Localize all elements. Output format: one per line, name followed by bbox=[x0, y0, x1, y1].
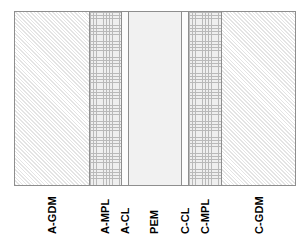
caption-pem-label: PEM bbox=[149, 210, 160, 234]
layer-c-mpl bbox=[188, 12, 221, 185]
layer-c-cl bbox=[181, 12, 188, 185]
figure-canvas: A-GDM A-MPL A-CL PEM C-CL C-MPL C-GDM bbox=[0, 0, 308, 236]
layer-a-gdm bbox=[15, 12, 89, 185]
caption-c-cl-label: C-CL bbox=[180, 207, 191, 234]
layer-c-gdm bbox=[221, 12, 295, 185]
mea-layer-stack bbox=[14, 11, 296, 186]
caption-c-gdm-label: C-GDM bbox=[254, 196, 265, 234]
layer-pem bbox=[128, 12, 181, 185]
layer-a-mpl bbox=[89, 12, 121, 185]
layer-a-cl bbox=[121, 12, 128, 185]
caption-a-mpl-label: A-MPL bbox=[100, 199, 111, 234]
caption-a-cl-label: A-CL bbox=[120, 207, 131, 234]
caption-c-mpl-label: C-MPL bbox=[200, 199, 211, 234]
caption-a-gdm-label: A-GDM bbox=[47, 196, 58, 234]
